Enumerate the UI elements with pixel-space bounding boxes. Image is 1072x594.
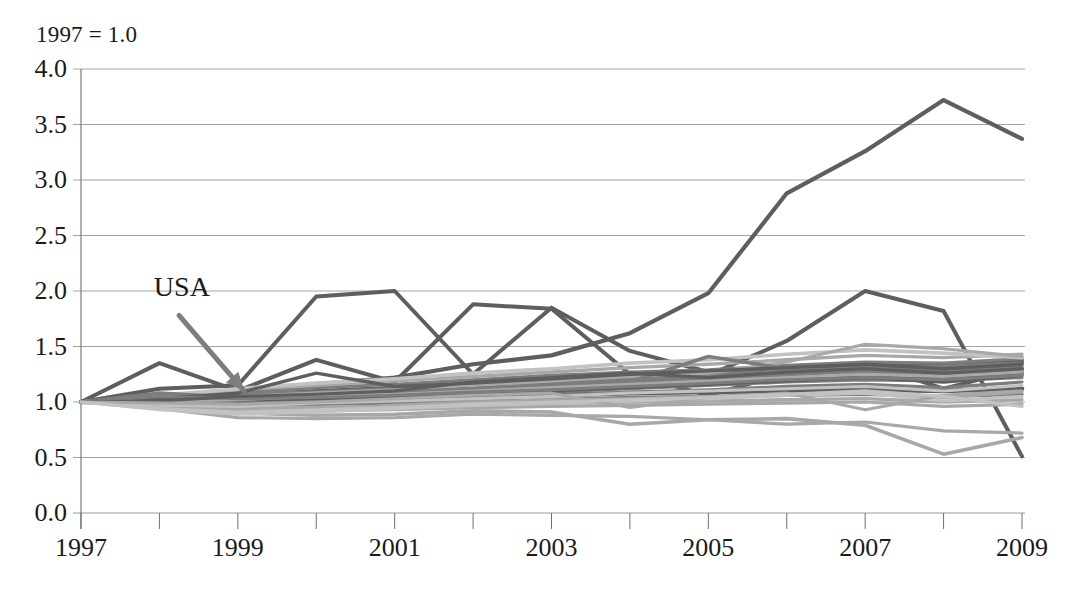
- x-tick-label-2007: 2007: [810, 535, 920, 561]
- gridlines-group: [73, 69, 1025, 513]
- data-series-group: [81, 100, 1022, 456]
- x-tick-label-2001: 2001: [340, 535, 450, 561]
- y-tick-label-2.5: 2.5: [3, 223, 67, 249]
- x-tick-label-2009: 2009: [967, 535, 1072, 561]
- annotation-label-usa: USA: [154, 273, 210, 301]
- y-tick-label-0.5: 0.5: [3, 445, 67, 471]
- x-tick-label-1999: 1999: [183, 535, 293, 561]
- y-tick-label-3.5: 3.5: [3, 112, 67, 138]
- y-tick-label-2.0: 2.0: [3, 278, 67, 304]
- y-tick-label-4.0: 4.0: [3, 56, 67, 82]
- x-tick-label-1997: 1997: [26, 535, 136, 561]
- y-tick-label-3.0: 3.0: [3, 167, 67, 193]
- chart-title: 1997 = 1.0: [36, 22, 137, 48]
- x-tickmarks-group: [81, 513, 1022, 529]
- y-tick-label-1.5: 1.5: [3, 334, 67, 360]
- x-tick-label-2005: 2005: [653, 535, 763, 561]
- x-tick-label-2003: 2003: [497, 535, 607, 561]
- chart-figure: 1997 = 1.0 0.00.51.01.52.02.53.03.54.0 1…: [0, 0, 1072, 594]
- y-tick-label-1.0: 1.0: [3, 389, 67, 415]
- y-tick-label-0.0: 0.0: [3, 500, 67, 526]
